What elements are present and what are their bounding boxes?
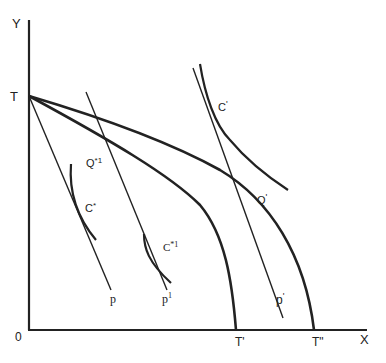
label-c-star: C*: [85, 201, 96, 214]
label-t2: T": [312, 335, 324, 349]
label-y: Y: [12, 16, 21, 31]
label-x: X: [360, 332, 369, 347]
label-q-star1: Q*1: [86, 156, 103, 169]
label-t: T: [10, 89, 18, 104]
label-c-star1: C*1: [163, 240, 178, 253]
ppf-diagram: Y T 0 X T' T" p p1 p' C* C*1 C' Q*1 Q': [0, 0, 386, 363]
indiff-curve-c1: [200, 64, 288, 190]
price-line-p1-right: [193, 68, 283, 318]
price-line-p: [29, 96, 111, 290]
label-c1: C': [218, 99, 228, 113]
label-p: p: [110, 292, 116, 306]
label-p1-right: p': [276, 291, 285, 307]
label-t1: T': [235, 335, 245, 349]
label-q1: Q': [257, 192, 268, 206]
label-origin: 0: [15, 330, 22, 344]
label-p1-left: p1: [162, 291, 172, 306]
